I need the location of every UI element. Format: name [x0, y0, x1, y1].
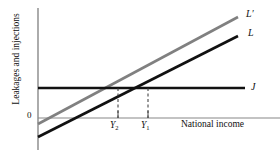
tick-label-y2: Y2: [110, 121, 119, 131]
origin-label: 0: [27, 111, 32, 120]
curve-label-j: J: [251, 82, 255, 92]
curve-label-l-prime: L′: [246, 9, 254, 19]
economics-diagram: Leakages and injections 0 L′ L J Y2 Y1 N…: [0, 0, 280, 167]
tick-label-y2-subscript: 2: [115, 124, 118, 131]
y-axis-label: Leakages and injections: [11, 0, 21, 119]
x-axis-label: National income: [181, 120, 244, 130]
tick-label-y1: Y1: [141, 121, 150, 131]
curve-label-l: L: [248, 28, 254, 38]
tick-label-y1-subscript: 1: [146, 124, 149, 131]
chart-plot-area: [0, 0, 280, 167]
curve-l-prime: [38, 17, 238, 124]
